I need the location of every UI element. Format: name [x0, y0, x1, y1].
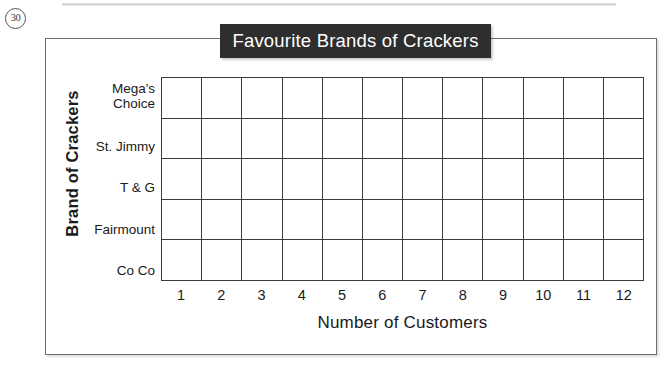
- x-tick-label: 6: [362, 284, 402, 306]
- grid-cell[interactable]: [564, 78, 604, 118]
- x-tick-label: 7: [403, 284, 443, 306]
- x-tick-label: 9: [483, 284, 523, 306]
- grid-row[interactable]: [162, 78, 643, 119]
- grid-cell[interactable]: [483, 78, 523, 118]
- grid-cell[interactable]: [363, 200, 403, 240]
- x-tick-label: 4: [282, 284, 322, 306]
- page-divider-rule: [62, 3, 616, 6]
- grid-cell[interactable]: [323, 240, 363, 280]
- grid-cell[interactable]: [524, 159, 564, 199]
- grid-cell[interactable]: [323, 159, 363, 199]
- grid-cell[interactable]: [524, 240, 564, 280]
- grid-cell[interactable]: [483, 240, 523, 280]
- y-tick-label-megas-choice: Mega's Choice: [61, 77, 158, 115]
- grid-cell[interactable]: [323, 200, 363, 240]
- grid-cell[interactable]: [363, 78, 403, 118]
- chart-title: Favourite Brands of Crackers: [220, 24, 491, 58]
- grid-cell[interactable]: [564, 240, 604, 280]
- grid-cell[interactable]: [202, 200, 242, 240]
- grid-cell[interactable]: [483, 159, 523, 199]
- grid-cell[interactable]: [162, 240, 202, 280]
- grid-cell[interactable]: [483, 200, 523, 240]
- grid-cell[interactable]: [162, 159, 202, 199]
- grid-cell[interactable]: [242, 159, 282, 199]
- grid-cell[interactable]: [443, 78, 483, 118]
- grid-cell[interactable]: [524, 78, 564, 118]
- x-tick-label: 8: [443, 284, 483, 306]
- grid-cell[interactable]: [403, 200, 443, 240]
- grid-cell[interactable]: [363, 119, 403, 159]
- grid-cell[interactable]: [283, 119, 323, 159]
- grid-cell[interactable]: [242, 240, 282, 280]
- x-tick-label: 2: [201, 284, 241, 306]
- grid-cell[interactable]: [283, 240, 323, 280]
- y-tick-label-fairmount: Fairmount: [61, 198, 158, 239]
- x-tick-label: 3: [242, 284, 282, 306]
- grid-cell[interactable]: [483, 119, 523, 159]
- grid-cell[interactable]: [403, 240, 443, 280]
- grid-cell[interactable]: [524, 119, 564, 159]
- grid-cell[interactable]: [604, 78, 643, 118]
- grid-cell[interactable]: [162, 78, 202, 118]
- grid-cell[interactable]: [242, 200, 282, 240]
- grid-row[interactable]: [162, 200, 643, 241]
- grid-row[interactable]: [162, 119, 643, 160]
- grid-row[interactable]: [162, 240, 643, 280]
- grid-cell[interactable]: [604, 240, 643, 280]
- grid-cell[interactable]: [363, 159, 403, 199]
- grid-cell[interactable]: [564, 119, 604, 159]
- grid-cell[interactable]: [524, 200, 564, 240]
- grid-cell[interactable]: [162, 119, 202, 159]
- grid-cell[interactable]: [202, 119, 242, 159]
- x-tick-label: 5: [322, 284, 362, 306]
- grid-cell[interactable]: [202, 159, 242, 199]
- grid-cell[interactable]: [283, 78, 323, 118]
- grid-cell[interactable]: [323, 119, 363, 159]
- x-tick-label: 10: [523, 284, 563, 306]
- y-axis-tick-labels: Mega's Choice St. Jimmy T & G Fairmount …: [61, 77, 158, 281]
- grid-cell[interactable]: [283, 200, 323, 240]
- y-tick-label-t-and-g: T & G: [61, 157, 158, 198]
- grid-cell[interactable]: [363, 240, 403, 280]
- grid-cell[interactable]: [403, 78, 443, 118]
- grid-cell[interactable]: [403, 159, 443, 199]
- grid-cell[interactable]: [604, 119, 643, 159]
- grid-cell[interactable]: [443, 240, 483, 280]
- plot-grid[interactable]: [161, 77, 644, 281]
- grid-cell[interactable]: [403, 119, 443, 159]
- grid-row[interactable]: [162, 159, 643, 200]
- grid-cell[interactable]: [604, 200, 643, 240]
- x-tick-label: 12: [604, 284, 644, 306]
- grid-cell[interactable]: [202, 78, 242, 118]
- grid-cell[interactable]: [202, 240, 242, 280]
- grid-cell[interactable]: [564, 159, 604, 199]
- y-tick-label-st-jimmy: St. Jimmy: [61, 115, 158, 156]
- grid-cell[interactable]: [283, 159, 323, 199]
- x-tick-label: 1: [161, 284, 201, 306]
- y-tick-label-co-co: Co Co: [61, 240, 158, 281]
- grid-cell[interactable]: [443, 200, 483, 240]
- grid-cell[interactable]: [242, 78, 282, 118]
- grid-cell[interactable]: [242, 119, 282, 159]
- grid-cell[interactable]: [323, 78, 363, 118]
- x-tick-label: 11: [564, 284, 604, 306]
- x-axis-tick-labels: 1 2 3 4 5 6 7 8 9 10 11 12: [161, 284, 644, 306]
- question-number: 30: [5, 8, 26, 29]
- grid-cell[interactable]: [443, 159, 483, 199]
- grid-cell[interactable]: [443, 119, 483, 159]
- grid-cell[interactable]: [162, 200, 202, 240]
- grid-cell[interactable]: [604, 159, 643, 199]
- grid-cell[interactable]: [564, 200, 604, 240]
